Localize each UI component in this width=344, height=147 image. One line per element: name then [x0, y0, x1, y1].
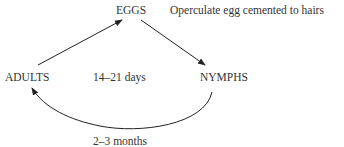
arrow-adults-to-eggs [38, 20, 122, 65]
node-eggs: EGGS [116, 4, 146, 16]
cycle-arrows [0, 0, 344, 147]
cycle-duration-label: 14–21 days [93, 71, 146, 83]
nymph-duration-label: 2–3 months [93, 135, 147, 147]
arrow-eggs-to-nymphs [141, 20, 205, 65]
node-adults: ADULTS [5, 71, 49, 83]
egg-note: Operculate egg cemented to hairs [170, 4, 324, 16]
arrow-nymphs-to-adults [32, 88, 212, 129]
node-nymphs: NYMPHS [200, 71, 248, 83]
